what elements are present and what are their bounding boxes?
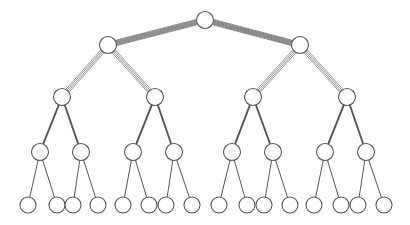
tree-node[interactable] — [224, 144, 241, 161]
tree-leaf-node[interactable] — [65, 197, 81, 213]
node-circle — [125, 144, 142, 161]
node-circle — [20, 197, 36, 213]
tree-node[interactable] — [339, 89, 356, 106]
tree-leaf-node[interactable] — [333, 197, 349, 213]
tree-edge — [221, 160, 230, 197]
tree-edge — [350, 105, 363, 144]
node-circle — [115, 197, 131, 213]
node-circle — [317, 144, 334, 161]
tree-edge — [359, 160, 365, 197]
tree-leaf-node[interactable] — [184, 197, 200, 213]
tree-node[interactable] — [245, 89, 262, 106]
tree-leaf-node[interactable] — [239, 197, 255, 213]
tree-edge — [136, 105, 152, 144]
tree-leaf-node[interactable] — [49, 197, 65, 213]
tree-edge — [256, 105, 270, 144]
node-circle — [54, 89, 71, 106]
node-circle — [358, 144, 375, 161]
nodes-layer — [20, 12, 392, 214]
tree-edge — [30, 160, 38, 197]
tree-edge — [135, 160, 146, 197]
tree-node[interactable] — [358, 144, 375, 161]
node-circle — [333, 197, 349, 213]
tree-node[interactable] — [292, 37, 309, 54]
node-circle — [239, 197, 255, 213]
tree-leaf-node[interactable] — [115, 197, 131, 213]
tree-edge — [327, 160, 338, 197]
tree-leaf-node[interactable] — [158, 197, 174, 213]
tree-edge — [84, 160, 96, 197]
tree-leaf-node[interactable] — [90, 197, 106, 213]
tree-edge — [167, 160, 173, 197]
node-circle — [282, 197, 298, 213]
tree-leaf-node[interactable] — [282, 197, 298, 213]
tree-node[interactable] — [317, 144, 334, 161]
node-circle — [211, 197, 227, 213]
tree-leaf-node[interactable] — [376, 197, 392, 213]
tree-edge — [158, 105, 171, 144]
node-circle — [158, 197, 174, 213]
tree-edge — [328, 105, 344, 144]
tree-edge — [66, 50, 104, 92]
tree-root-node[interactable] — [197, 12, 214, 29]
tree-leaf-node[interactable] — [141, 197, 157, 213]
tree-node[interactable] — [54, 89, 71, 106]
binary-tree-svg — [0, 0, 410, 225]
node-circle — [65, 197, 81, 213]
node-circle — [224, 144, 241, 161]
tree-leaf-node[interactable] — [256, 197, 272, 213]
tree-node[interactable] — [73, 144, 90, 161]
tree-node[interactable] — [100, 37, 117, 54]
tree-edge — [304, 50, 343, 92]
node-circle — [73, 144, 90, 161]
tree-leaf-node[interactable] — [20, 197, 36, 213]
node-circle — [166, 144, 183, 161]
tree-edge — [124, 160, 131, 197]
node-circle — [292, 37, 309, 54]
tree-edge — [43, 160, 55, 197]
node-circle — [197, 12, 214, 29]
node-circle — [339, 89, 356, 106]
tree-edge — [316, 160, 324, 197]
tree-leaf-node[interactable] — [306, 197, 322, 213]
node-circle — [141, 197, 157, 213]
tree-edge — [177, 160, 190, 197]
node-circle — [350, 197, 366, 213]
node-circle — [147, 89, 164, 106]
tree-node[interactable] — [125, 144, 142, 161]
tree-edge — [74, 160, 80, 197]
tree-edge — [112, 50, 151, 92]
node-circle — [245, 89, 262, 106]
tree-edge — [43, 105, 59, 144]
node-circle — [100, 37, 117, 54]
node-circle — [49, 197, 65, 213]
diagram-canvas — [0, 0, 410, 225]
tree-leaf-node[interactable] — [211, 197, 227, 213]
tree-edge — [265, 160, 271, 197]
edges-layer — [30, 20, 382, 198]
tree-edge — [257, 50, 296, 92]
tree-edge — [369, 160, 382, 197]
tree-node[interactable] — [166, 144, 183, 161]
node-circle — [256, 197, 272, 213]
node-circle — [90, 197, 106, 213]
tree-node[interactable] — [147, 89, 164, 106]
tree-node[interactable] — [32, 144, 49, 161]
tree-edge — [276, 160, 288, 197]
tree-leaf-node[interactable] — [350, 197, 366, 213]
node-circle — [265, 144, 282, 161]
node-circle — [306, 197, 322, 213]
node-circle — [32, 144, 49, 161]
tree-edge — [234, 160, 245, 197]
tree-node[interactable] — [265, 144, 282, 161]
tree-edge — [65, 105, 78, 144]
node-circle — [184, 197, 200, 213]
tree-edge — [235, 105, 250, 144]
node-circle — [376, 197, 392, 213]
